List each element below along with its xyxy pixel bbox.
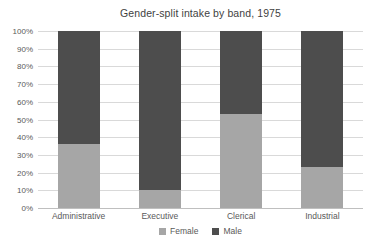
bar-segment-male	[139, 31, 181, 190]
x-axis-label: Administrative	[38, 211, 119, 221]
bar-segment-female	[58, 144, 100, 208]
stacked-bar-chart: Gender-split intake by band, 1975 0%10%2…	[0, 0, 369, 243]
y-axis-tick-label: 60%	[17, 97, 33, 106]
legend-label-male: Male	[223, 226, 241, 236]
legend: FemaleMale	[38, 226, 363, 236]
plot-area	[38, 31, 363, 209]
bar-segment-female	[301, 167, 343, 208]
legend-item-female: Female	[159, 226, 198, 236]
stacked-bar	[301, 31, 343, 208]
legend-swatch-female	[159, 228, 166, 235]
chart-title: Gender-split intake by band, 1975	[38, 7, 363, 19]
x-axis-label: Executive	[119, 211, 200, 221]
x-axis: AdministrativeExecutiveClericalIndustria…	[38, 211, 363, 221]
legend-item-male: Male	[212, 226, 241, 236]
y-axis-tick-label: 10%	[17, 186, 33, 195]
y-axis: 0%10%20%30%40%50%60%70%80%90%100%	[0, 31, 33, 208]
stacked-bar	[220, 31, 262, 208]
bar-segment-female	[139, 190, 181, 208]
y-axis-tick-label: 100%	[13, 27, 33, 36]
bar-group-industrial	[282, 31, 363, 208]
y-axis-tick-label: 20%	[17, 168, 33, 177]
y-axis-tick-label: 0%	[21, 204, 33, 213]
y-axis-tick-label: 80%	[17, 62, 33, 71]
bar-segment-female	[220, 114, 262, 208]
bar-group-administrative	[38, 31, 119, 208]
bar-segment-male	[58, 31, 100, 144]
stacked-bar	[58, 31, 100, 208]
legend-label-female: Female	[170, 226, 198, 236]
bar-group-clerical	[201, 31, 282, 208]
x-axis-label: Clerical	[201, 211, 282, 221]
x-axis-label: Industrial	[282, 211, 363, 221]
bar-segment-male	[220, 31, 262, 114]
y-axis-tick-label: 50%	[17, 115, 33, 124]
y-axis-tick-label: 30%	[17, 150, 33, 159]
y-axis-tick-label: 90%	[17, 44, 33, 53]
bar-segment-male	[301, 31, 343, 167]
y-axis-tick-label: 70%	[17, 80, 33, 89]
stacked-bar	[139, 31, 181, 208]
y-axis-tick-label: 40%	[17, 133, 33, 142]
bar-group-executive	[119, 31, 200, 208]
legend-swatch-male	[212, 228, 219, 235]
